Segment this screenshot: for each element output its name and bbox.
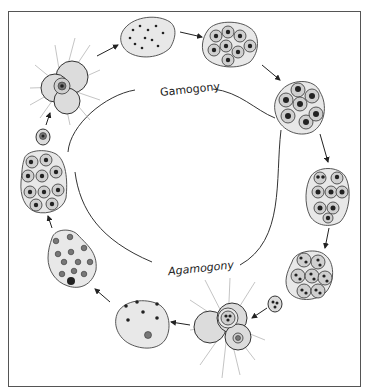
stage-zygote-cluster — [286, 251, 333, 300]
gamogony-label: Gamogony — [159, 80, 220, 99]
arrow-icon — [262, 65, 280, 80]
arrow-icon — [171, 322, 190, 325]
arrow-icon — [180, 32, 202, 37]
stage-schizont — [48, 230, 96, 287]
lower-right-curve — [240, 130, 281, 265]
stage-embryo-cluster — [21, 151, 67, 213]
arrow-icon — [325, 228, 329, 248]
arrow-icon — [95, 289, 110, 302]
stage-zygote — [268, 296, 282, 312]
arrow-icon — [46, 113, 50, 125]
stage-gamete-cluster-3 — [306, 169, 349, 226]
stage-multinucleate-gamont — [121, 17, 175, 57]
stage-gamete-cluster-2 — [275, 82, 325, 135]
stage-young-cell — [36, 129, 50, 145]
arrow-icon — [320, 134, 328, 162]
agamogony-label: Agamogony — [167, 258, 235, 278]
stage-agamont-pseudopodia — [190, 278, 265, 378]
stage-gamont-pseudopodia — [30, 38, 100, 125]
arrow-icon — [48, 216, 52, 228]
life-cycle-diagram: Gamogony Agamogony — [0, 0, 371, 390]
stage-gamete-cluster-1 — [202, 22, 257, 67]
cycle-lines — [68, 89, 281, 265]
stage-multinucleate-agamont — [116, 300, 169, 348]
arrow-icon — [97, 45, 118, 56]
arrow-icon — [252, 308, 267, 318]
upper-right-curve — [213, 89, 275, 118]
